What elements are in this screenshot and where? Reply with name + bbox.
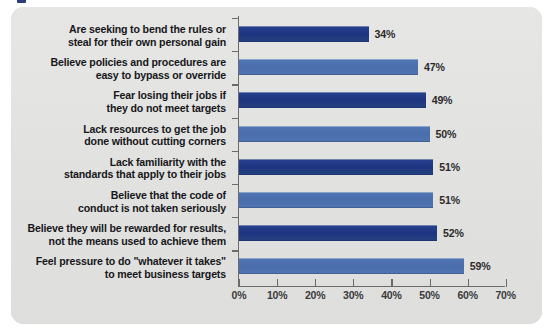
y-axis-tick (232, 18, 239, 19)
category-label: Are seeking to bend the rules or steal f… (0, 23, 226, 48)
bar-value-label: 51% (439, 194, 460, 206)
bar (239, 159, 433, 175)
bar (239, 192, 433, 208)
x-axis-tick-label: 50% (419, 289, 439, 301)
bar-value-label: 52% (443, 227, 464, 239)
bar-value-label: 47% (424, 61, 445, 73)
bar (239, 225, 437, 241)
y-axis-tick (232, 84, 239, 85)
y-axis-tick (232, 118, 239, 119)
x-axis-tick-label: 70% (495, 289, 515, 301)
bar (239, 92, 426, 108)
bar-value-label: 34% (375, 28, 396, 40)
x-axis-tick (468, 279, 469, 287)
category-label: Believe policies and procedures are easy… (0, 56, 226, 81)
plot-area: 0%10%20%30%40%50%60%70% Are seeking to b… (227, 16, 527, 316)
x-axis-tick-label: 40% (381, 289, 401, 301)
y-axis-tick (232, 217, 239, 218)
category-label: Lack familiarity with the standards that… (0, 156, 226, 181)
x-axis-tick (353, 279, 354, 287)
x-axis-tick (430, 279, 431, 287)
x-axis-tick-label: 60% (457, 289, 477, 301)
y-axis-tick (232, 151, 239, 152)
x-axis-tick-label: 30% (343, 289, 363, 301)
x-axis-tick (239, 279, 240, 287)
category-label: Fear losing their jobs if they do not me… (0, 89, 226, 114)
x-axis-tick (315, 279, 316, 287)
y-axis-tick (232, 51, 239, 52)
category-label: Feel pressure to do "whatever it takes" … (0, 255, 226, 280)
bar (239, 258, 464, 274)
chart-figure: 0%10%20%30%40%50%60%70% Are seeking to b… (0, 0, 556, 335)
x-axis-tick-label: 0% (232, 289, 247, 301)
bar-value-label: 49% (432, 94, 453, 106)
category-label: Believe that the code of conduct is not … (0, 189, 226, 214)
x-axis-tick-label: 20% (305, 289, 325, 301)
bar-value-label: 59% (470, 260, 491, 272)
decorative-top-marker (17, 0, 26, 3)
bar (239, 126, 430, 142)
x-axis-tick (391, 279, 392, 287)
category-label: Believe they will be rewarded for result… (0, 222, 226, 247)
category-label: Lack resources to get the job done witho… (0, 123, 226, 148)
x-axis-tick (277, 279, 278, 287)
bar (239, 59, 418, 75)
bar-value-label: 50% (436, 128, 457, 140)
bar-value-label: 51% (439, 161, 460, 173)
x-axis-tick-label: 10% (267, 289, 287, 301)
bar (239, 26, 369, 42)
y-axis-tick (232, 250, 239, 251)
y-axis-tick (232, 184, 239, 185)
x-axis-tick (506, 279, 507, 287)
